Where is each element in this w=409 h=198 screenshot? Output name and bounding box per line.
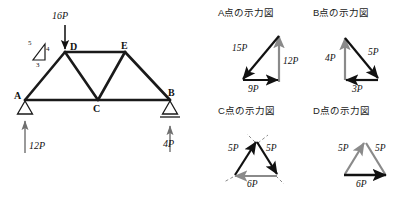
node-label-C: C — [93, 104, 100, 114]
vector-label-5P-D-left: 5P — [338, 144, 349, 154]
construction-line-c-right — [276, 176, 284, 184]
vector-label-5P-B: 5P — [368, 48, 379, 58]
figure-canvas — [0, 0, 409, 198]
force-polygon-B — [345, 38, 378, 80]
node-label-A: A — [14, 91, 21, 101]
truss-member-C-E — [98, 52, 125, 100]
construction-line-c-top2 — [258, 135, 268, 143]
vector-label-6P-D: 6P — [356, 180, 367, 190]
slope-triangle — [33, 44, 45, 60]
vector-label-12P: 12P — [283, 57, 298, 67]
truss-member-D-C — [65, 52, 98, 100]
panel-title-B: B点の示力図 — [313, 8, 369, 18]
vector-5P-B — [345, 38, 378, 78]
vector-label-9P: 9P — [248, 85, 259, 95]
force-polygon-C — [224, 134, 284, 184]
vector-label-4P: 4P — [325, 54, 336, 64]
slope-label-base: 3 — [36, 62, 40, 69]
vector-label-5P-C-right: 5P — [266, 144, 277, 154]
node-label-E: E — [121, 41, 128, 51]
vector-label-3P: 3P — [352, 85, 363, 95]
panel-title-C: C点の示力図 — [218, 106, 275, 116]
figure-root: A D E B C 16P 12P 4P 5 4 3 A点の示力図 B点の示力図… — [0, 0, 409, 198]
vector-label-5P-C-left: 5P — [228, 144, 239, 154]
slope-label-hypotenuse: 5 — [28, 40, 32, 47]
truss-member-E-B — [125, 52, 170, 100]
construction-line-c-left — [224, 177, 233, 182]
reaction-label-12P: 12P — [29, 141, 45, 151]
panel-title-D: D点の示力図 — [313, 106, 370, 116]
force-polygon-A — [243, 36, 279, 82]
reaction-label-4P: 4P — [163, 139, 174, 149]
support-roller-B — [163, 101, 178, 114]
load-label-16P: 16P — [52, 11, 68, 21]
truss-diagram — [18, 25, 181, 153]
slope-label-vertical: 4 — [46, 46, 50, 53]
vector-label-6P-C: 6P — [247, 180, 258, 190]
construction-line-c-top — [247, 134, 255, 142]
vector-label-5P-D-right: 5P — [375, 144, 386, 154]
node-label-D: D — [70, 42, 77, 52]
vector-15P — [243, 36, 279, 79]
node-label-B: B — [168, 88, 175, 98]
support-pin-A — [18, 101, 33, 114]
panel-title-A: A点の示力図 — [218, 8, 274, 18]
vector-label-15P: 15P — [232, 44, 247, 54]
